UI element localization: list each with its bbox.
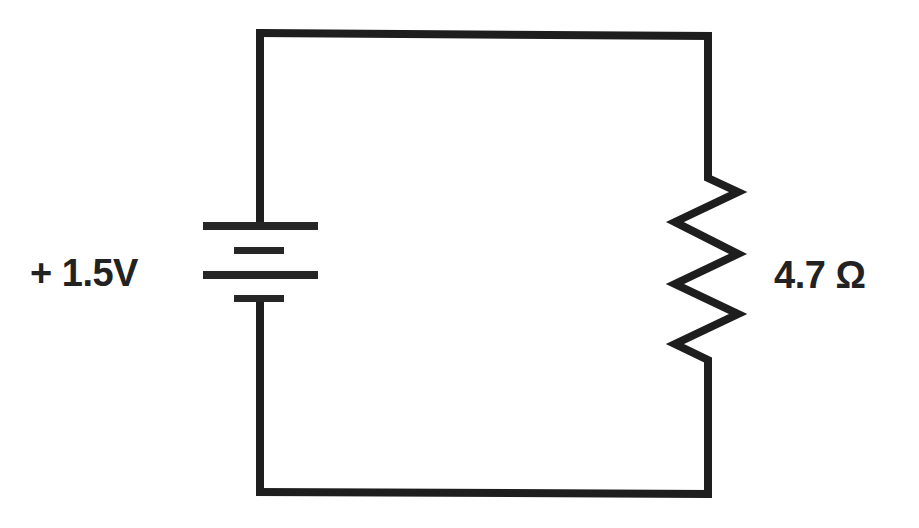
battery-icon xyxy=(203,222,318,302)
wire-bottom xyxy=(260,492,708,494)
wire-top xyxy=(260,33,708,36)
battery-voltage-label: + 1.5V xyxy=(30,254,138,292)
battery-plate-short-2 xyxy=(234,295,284,302)
battery-plate-long-2 xyxy=(203,271,318,279)
resistor-icon xyxy=(675,172,738,366)
resistor-value-label: 4.7 Ω xyxy=(774,256,865,294)
battery-plate-short-1 xyxy=(234,247,284,254)
battery-plate-long-1 xyxy=(203,222,318,230)
